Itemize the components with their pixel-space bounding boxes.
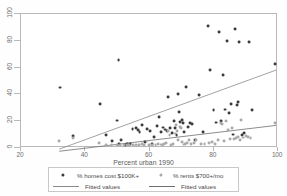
data-point-homes [159, 131, 162, 134]
data-point-homes [218, 30, 221, 33]
data-point-rents [199, 143, 202, 146]
y-tick-label: 60 [6, 59, 13, 73]
data-point-rents [229, 138, 232, 141]
data-point-homes [148, 130, 151, 133]
legend-label-rents: % rents $700+/mo [173, 172, 223, 179]
data-point-rents [176, 129, 179, 132]
data-point-homes [155, 125, 158, 128]
data-point-homes [212, 109, 215, 112]
chart-legend: % homes cost $100K+ Fitted values % rent… [48, 167, 239, 192]
legend-label-homes-fit: Fitted values [85, 183, 120, 190]
data-point-homes [215, 121, 218, 124]
data-point-rents [221, 123, 224, 126]
data-point-rents [225, 119, 228, 122]
data-point-rents [238, 138, 241, 141]
data-point-rents [72, 137, 75, 140]
data-point-homes [231, 133, 234, 136]
data-point-rents [227, 129, 230, 132]
data-point-rents [217, 138, 220, 141]
legend-label-homes: % homes cost $100K+ [77, 172, 139, 179]
data-point-homes [117, 58, 120, 61]
data-point-rents [231, 127, 234, 130]
data-point-rents [143, 144, 146, 147]
data-point-homes [222, 73, 225, 76]
data-point-rents [128, 144, 131, 147]
x-tick-label: 60 [138, 151, 160, 158]
data-point-rents [98, 141, 101, 144]
y-tick-label: 40 [6, 86, 13, 100]
data-point-homes [234, 27, 237, 30]
data-point-homes [236, 104, 239, 107]
plot-area [21, 14, 276, 146]
x-tick-label: 80 [202, 151, 224, 158]
data-point-rents [223, 139, 226, 142]
x-tick-label: 20 [9, 151, 31, 158]
data-point-homes [227, 111, 230, 114]
data-point-rents [173, 132, 176, 135]
legend-line-rents-fit [149, 186, 175, 187]
data-point-homes [209, 69, 212, 72]
data-point-homes [248, 41, 251, 44]
legend-marker-rents [159, 173, 162, 176]
legend-label-rents-fit: Fitted values [181, 183, 216, 190]
data-point-homes [58, 86, 61, 89]
data-point-homes [238, 40, 241, 43]
plot-frame [20, 13, 277, 147]
scatter-plot-figure: 100 80 60 40 20 0 20 40 60 80 100 Percen… [0, 0, 287, 196]
data-point-homes [110, 139, 113, 142]
data-point-rents [110, 143, 113, 146]
data-point-homes [236, 100, 239, 103]
legend-line-homes-fit [53, 186, 79, 187]
data-point-homes [178, 111, 181, 114]
data-point-homes [191, 123, 194, 126]
data-point-homes [172, 120, 175, 123]
data-point-homes [99, 102, 102, 105]
data-point-homes [138, 131, 141, 134]
data-point-homes [187, 126, 190, 129]
data-point-homes [201, 130, 204, 133]
data-point-rents [249, 137, 252, 140]
data-point-homes [183, 131, 186, 134]
data-point-homes [181, 121, 184, 124]
data-point-homes [176, 93, 179, 96]
data-point-homes [224, 108, 227, 111]
data-point-rents [186, 142, 189, 145]
data-point-rents [177, 139, 180, 142]
data-point-rents [165, 142, 168, 145]
y-tick-label: 20 [6, 113, 13, 127]
fitted-lines-layer [21, 14, 276, 146]
x-tick-label: 100 [266, 151, 287, 158]
data-point-homes [141, 124, 144, 127]
data-point-homes [169, 127, 172, 130]
y-tick-label: 80 [6, 32, 13, 46]
data-point-rents [174, 123, 177, 126]
data-point-rents [239, 119, 242, 122]
data-point-rents [195, 139, 198, 142]
data-point-homes [105, 133, 108, 136]
data-point-rents [188, 139, 191, 142]
y-tick-label: 100 [6, 6, 13, 20]
data-point-rents [214, 143, 217, 146]
data-point-homes [185, 85, 188, 88]
data-point-rents [203, 143, 206, 146]
data-point-homes [157, 116, 160, 119]
data-point-homes [273, 63, 276, 66]
data-point-homes [116, 119, 119, 122]
data-point-rents [171, 143, 174, 146]
data-point-rents [145, 140, 148, 143]
data-point-homes [120, 138, 123, 141]
x-tick-label: 40 [73, 151, 95, 158]
data-point-homes [153, 136, 156, 139]
data-point-rents [168, 133, 171, 136]
data-point-homes [197, 93, 200, 96]
data-point-homes [225, 40, 228, 43]
legend-marker-homes [61, 173, 64, 176]
data-point-rents [192, 142, 195, 145]
data-point-rents [118, 144, 121, 147]
x-axis-title: Percent urban 1990 [0, 159, 287, 166]
data-point-homes [207, 24, 210, 27]
data-point-homes [250, 108, 253, 111]
data-point-rents [58, 140, 61, 143]
data-point-homes [230, 103, 233, 106]
data-point-rents [180, 126, 183, 129]
